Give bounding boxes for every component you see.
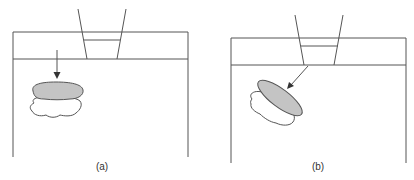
funnel <box>295 15 343 65</box>
gray-layer <box>33 82 83 100</box>
panel-b <box>231 15 406 163</box>
panel-a <box>13 9 188 157</box>
arrow-down-icon <box>54 50 61 79</box>
funnel <box>78 9 126 59</box>
panel-a-label: (a) <box>96 161 108 172</box>
arrow-diagonal-icon <box>287 66 308 89</box>
panel-b-label: (b) <box>312 161 324 172</box>
figure-canvas: (a) (b) <box>0 0 414 180</box>
